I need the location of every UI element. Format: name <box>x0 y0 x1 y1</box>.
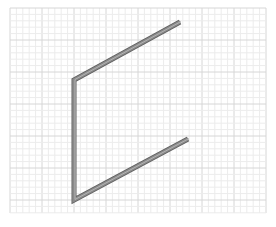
grid <box>10 8 266 213</box>
viewport-canvas[interactable] <box>0 0 276 227</box>
model-viewport[interactable] <box>0 0 276 227</box>
